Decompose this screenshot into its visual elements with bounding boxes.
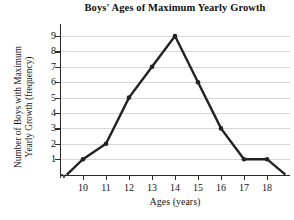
- y-tick-label: 9: [51, 31, 56, 41]
- y-tick-label: 8: [51, 46, 56, 56]
- data-point-marker: [196, 80, 201, 85]
- x-tick-label: 17: [239, 182, 249, 193]
- x-tick-label: 11: [101, 182, 111, 193]
- y-tick-label: 6: [51, 77, 56, 87]
- data-point-marker: [219, 126, 224, 131]
- y-tick-label: 1: [51, 154, 56, 164]
- plot-area: 123456789 101112131415161718: [60, 24, 290, 174]
- y-axis-label-line-1: Number of Boys with Maximum: [13, 46, 24, 168]
- y-tick-label: 3: [51, 123, 56, 133]
- y-axis-label: Number of Boys with Maximum Yearly Growt…: [9, 21, 39, 193]
- data-point-marker: [150, 65, 155, 70]
- x-tick-label: 16: [216, 182, 226, 193]
- data-point-marker: [242, 157, 247, 162]
- x-tick-label: 10: [78, 182, 88, 193]
- x-tick-label: 15: [193, 182, 203, 193]
- series-polyline: [60, 24, 290, 176]
- y-tick-label: 4: [51, 108, 56, 118]
- data-point-marker: [81, 157, 86, 162]
- x-tick-label: 14: [170, 182, 180, 193]
- y-tick-label: 7: [51, 62, 56, 72]
- y-tick-label: 2: [51, 139, 56, 149]
- data-point-marker: [265, 157, 270, 162]
- axis-break-icon: [56, 167, 72, 179]
- x-tick-label: 13: [147, 182, 157, 193]
- x-tick-label: 18: [262, 182, 272, 193]
- frequency-polygon-chart: Boys' Ages of Maximum Yearly Growth Numb…: [0, 0, 294, 220]
- data-point-marker: [127, 95, 132, 100]
- y-axis-label-line-2: Yearly Growth (frequency): [24, 57, 35, 158]
- x-tick-label: 12: [124, 182, 134, 193]
- data-point-marker: [173, 34, 178, 39]
- y-tick-label: 5: [51, 93, 56, 103]
- chart-title: Boys' Ages of Maximum Yearly Growth: [56, 2, 294, 14]
- x-axis-label: Ages (years): [60, 196, 290, 207]
- data-point-marker: [104, 142, 109, 147]
